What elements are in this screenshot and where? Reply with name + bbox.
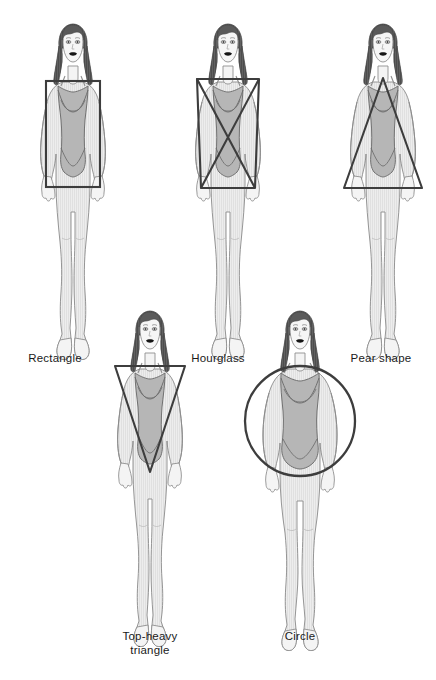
figure-pear-shape[interactable] xyxy=(344,24,422,360)
body-illustration xyxy=(41,24,106,360)
figure-rectangle[interactable] xyxy=(41,24,106,360)
label-rectangle: Rectangle xyxy=(0,351,110,365)
label-circle: Circle xyxy=(245,629,355,643)
figure-hourglass[interactable] xyxy=(196,24,261,360)
label-hourglass: Hourglass xyxy=(163,351,273,365)
body-illustration xyxy=(351,24,416,360)
body-illustration xyxy=(196,24,261,360)
label-pear-shape: Pear shape xyxy=(326,351,436,365)
label-top-heavy-triangle: Top-heavy triangle xyxy=(95,629,205,657)
body-shapes-diagram xyxy=(0,0,436,680)
